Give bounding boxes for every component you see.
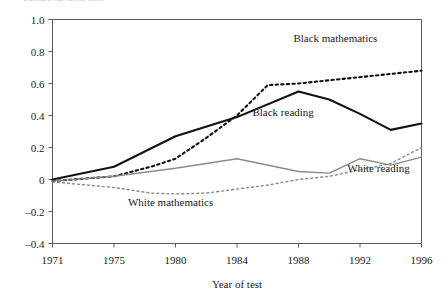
series-label-white-reading: White reading [347,162,410,174]
x-tick-label: 1996 [411,254,434,266]
x-tick-label: 1992 [349,254,371,266]
y-tick-label: 0.4 [31,110,45,122]
y-tick-label: 0.8 [31,46,45,58]
x-axis-ticks: 1971197519801984198819921996 [42,244,434,266]
y-tick-label: 0.2 [31,142,45,154]
y-axis-ticks: 1.00.80.60.40.20–0.2–0.4 [24,14,52,250]
y-tick-label: 0.6 [31,78,45,90]
x-tick-label: 1980 [165,254,188,266]
x-tick-label: 1984 [226,254,249,266]
x-axis-title: Year of test [212,278,262,290]
series-label-black-reading: Black reading [252,106,314,118]
series-label-black-mathematics: Black mathematics [293,32,377,44]
series-labels: Black mathematicsBlack readingWhite read… [128,32,410,208]
line-chart: 1.00.80.60.40.20–0.2–0.4 197119751980198… [0,0,447,296]
y-tick-label: 1.0 [31,14,45,26]
series-label-white-mathematics: White mathematics [128,196,213,208]
y-tick-label: 0 [39,174,45,186]
x-tick-label: 1975 [103,254,126,266]
plot-frame [53,20,422,244]
x-tick-label: 1988 [288,254,311,266]
y-tick-label: –0.2 [24,206,44,218]
x-tick-label: 1971 [42,254,64,266]
y-tick-label: –0.4 [24,238,45,250]
series-group [53,71,422,194]
axis-frame [53,20,422,244]
